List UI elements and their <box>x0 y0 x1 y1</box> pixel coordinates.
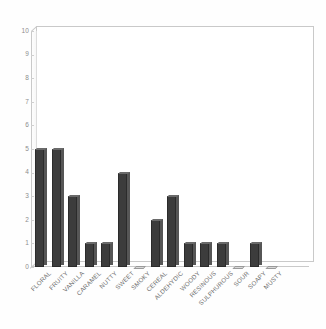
bar-chart: 012345678910 FLORALFRUITYVANILLACARAMELN… <box>0 0 326 329</box>
x-axis-label: FLORAL <box>30 270 52 292</box>
x-axis-labels: FLORALFRUITYVANILLACARAMELNUTTYSWEETSMOK… <box>0 0 326 329</box>
